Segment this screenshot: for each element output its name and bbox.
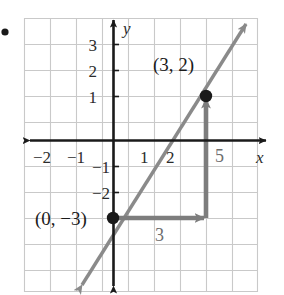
y-axis-label: y <box>121 19 131 38</box>
y-tick-label-3: 3 <box>89 36 98 55</box>
point-3-2 <box>200 90 212 102</box>
point-0-neg3 <box>107 212 119 224</box>
point-label-3-2: (3, 2) <box>153 54 194 76</box>
x-tick-label-neg2: −2 <box>33 148 51 167</box>
x-tick-label-2: 2 <box>166 148 175 167</box>
x-tick-label-neg1: −1 <box>67 148 85 167</box>
coordinate-plane-figure: y x −2 −1 1 2 3 2 1 −1 −2 (3, 2) (0, −3)… <box>0 0 284 295</box>
y-tick-label-neg2: −2 <box>92 184 110 203</box>
point-label-0-neg3: (0, −3) <box>35 208 87 230</box>
run-label: 3 <box>155 225 164 245</box>
bullet-marker <box>1 28 8 35</box>
y-tick-label-neg1: −1 <box>92 158 110 177</box>
y-tick-label-1: 1 <box>89 88 98 107</box>
y-tick-label-2: 2 <box>89 62 98 81</box>
graph-svg: y x −2 −1 1 2 3 2 1 −1 −2 (3, 2) (0, −3)… <box>0 0 284 295</box>
rise-label: 5 <box>215 146 224 166</box>
x-tick-label-1: 1 <box>140 148 149 167</box>
x-axis-label: x <box>255 148 264 167</box>
